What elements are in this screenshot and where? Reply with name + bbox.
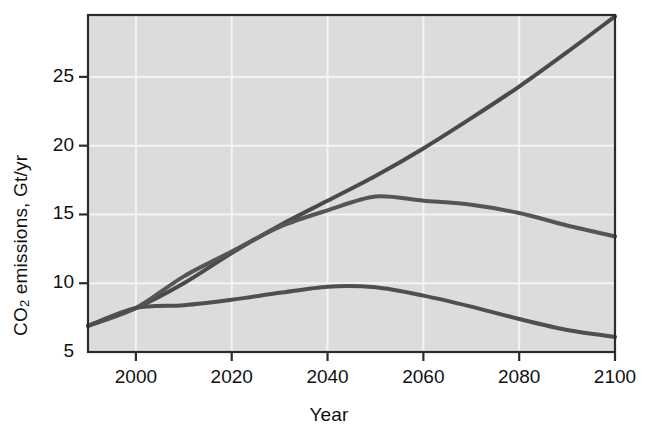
x-tick-label: 2060 [383,366,463,388]
y-tick-label: 15 [53,202,74,224]
y-axis-title-prefix: CO [10,307,31,336]
x-tick-label: 2020 [192,366,272,388]
y-axis-title-suffix: emissions, Gt/yr [10,155,31,300]
x-tick-label: 2100 [575,366,655,388]
plot-background [88,15,615,352]
y-axis-title: CO2 emissions, Gt/yr [10,155,32,336]
x-tick-label: 2040 [288,366,368,388]
x-tick-label: 2080 [479,366,559,388]
y-tick-label: 5 [63,340,74,362]
y-tick-label: 10 [53,271,74,293]
co2-emissions-line-chart: CO2 emissions, Gt/yr Year 51015202520002… [0,0,658,448]
x-tick-label: 2000 [96,366,176,388]
y-tick-label: 25 [53,65,74,87]
x-axis-title: Year [0,404,658,426]
y-tick-label: 20 [53,134,74,156]
y-axis-title-subscript: 2 [17,300,32,307]
